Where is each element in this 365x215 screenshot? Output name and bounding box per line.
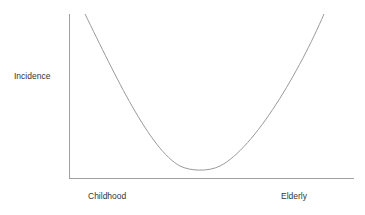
y-axis-label: Incidence bbox=[14, 71, 50, 81]
x-axis-label-childhood: Childhood bbox=[88, 191, 126, 201]
chart-canvas bbox=[0, 0, 365, 215]
incidence-curve bbox=[85, 14, 324, 170]
x-axis-label-elderly: Elderly bbox=[281, 191, 307, 201]
